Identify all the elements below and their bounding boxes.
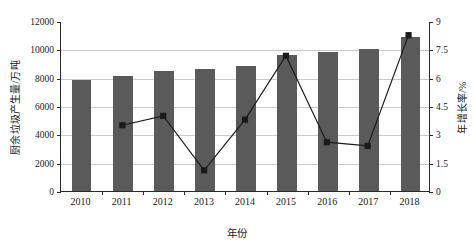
y-axis-left-tick-label: 12000 [30, 17, 54, 27]
y-axis-left-tick-label: 4000 [35, 130, 54, 140]
line-marker [283, 53, 289, 59]
y-axis-left-tick-label: 10000 [30, 45, 54, 55]
x-axis-tick-mark [184, 191, 185, 195]
line-marker [242, 117, 248, 123]
y-axis-left-tick-label: 8000 [35, 74, 54, 84]
y-axis-right-tick-mark [429, 164, 433, 165]
trend-line [122, 35, 408, 170]
x-axis-tick-label: 2011 [112, 196, 132, 207]
x-axis-tick-mark [349, 191, 350, 195]
line-marker [405, 32, 411, 38]
y-axis-left-title: 厨余垃圾产生量/万吨 [7, 43, 22, 173]
x-axis-tick-mark [143, 191, 144, 195]
x-axis-tick-label: 2018 [399, 196, 419, 207]
x-axis-tick-label: 2012 [153, 196, 173, 207]
x-axis-tick-mark [102, 191, 103, 195]
line-series [61, 22, 429, 191]
y-axis-right-tick-mark [429, 22, 433, 23]
y-axis-right-tick-label: 3 [436, 130, 441, 140]
x-axis-tick-mark [267, 191, 268, 195]
line-marker [160, 113, 166, 119]
plot-area: 020004000600080001000012000 01.534.567.5… [60, 22, 430, 192]
y-axis-right-tick-mark [429, 79, 433, 80]
x-axis-tick-mark [390, 191, 391, 195]
x-axis-tick-label: 2015 [276, 196, 296, 207]
line-marker [119, 122, 125, 128]
x-axis-tick-label: 2016 [317, 196, 337, 207]
y-axis-right-tick-label: 1.5 [436, 159, 448, 169]
y-axis-left-tick-label: 6000 [35, 102, 54, 112]
x-axis-title: 年份 [0, 225, 474, 240]
y-axis-right-tick-mark [429, 50, 433, 51]
y-axis-right-tick-label: 6 [436, 74, 441, 84]
x-axis-tick-label: 2017 [358, 196, 378, 207]
x-axis-tick-mark [225, 191, 226, 195]
x-axis-tick-mark [308, 191, 309, 195]
y-axis-right-tick-label: 9 [436, 17, 441, 27]
y-axis-right-tick-mark [429, 192, 433, 193]
y-axis-left-tick-mark [57, 192, 61, 193]
x-axis-tick-label: 2014 [235, 196, 255, 207]
x-axis-tick-label: 2013 [194, 196, 214, 207]
y-axis-right-tick-mark [429, 107, 433, 108]
y-axis-right-tick-mark [429, 135, 433, 136]
y-axis-right-title: 年增长率/% [454, 43, 469, 173]
y-axis-right-tick-label: 0 [436, 187, 441, 197]
line-marker [201, 167, 207, 173]
line-marker [365, 143, 371, 149]
chart-container: 厨余垃圾产生量/万吨 年增长率/% 0200040006000800010000… [0, 0, 474, 249]
y-axis-right-tick-label: 7.5 [436, 45, 448, 55]
y-axis-right-tick-label: 4.5 [436, 102, 448, 112]
y-axis-left-tick-label: 2000 [35, 159, 54, 169]
x-axis-tick-label: 2010 [71, 196, 91, 207]
line-marker [324, 139, 330, 145]
y-axis-left-tick-label: 0 [49, 187, 54, 197]
